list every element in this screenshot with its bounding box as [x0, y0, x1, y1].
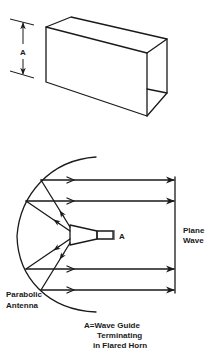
- plane-wave-label-2: Wave: [183, 236, 204, 245]
- antenna-label-2: Antenna: [6, 301, 39, 310]
- plane-wave-label-1: Plane: [183, 226, 205, 235]
- dimension-a: A: [10, 19, 34, 78]
- dimension-label: A: [20, 48, 26, 57]
- caption-line-2: Terminating: [97, 331, 142, 340]
- dimension-bottom-tick: [10, 71, 34, 78]
- incident-rays: [26, 180, 70, 290]
- incident-arrow-4: [60, 253, 64, 259]
- incident-arrow-1: [60, 211, 64, 217]
- box-inner-edge: [147, 89, 167, 93]
- horn-label: A: [119, 232, 125, 241]
- box-top-face: [46, 17, 167, 53]
- incident-ray-4: [41, 243, 70, 290]
- reflected-rays: [26, 177, 174, 293]
- waveguide-box: [46, 17, 167, 116]
- incident-ray-1: [41, 180, 70, 227]
- incident-arrow-2: [54, 220, 60, 224]
- antenna-label-1: Parabolic: [6, 290, 43, 299]
- incident-arrow-3: [54, 246, 60, 250]
- box-front-face: [46, 27, 147, 116]
- caption-line-1: A=Wave Guide: [84, 321, 140, 330]
- horn-waveguide: [97, 231, 113, 239]
- diagram-canvas: A: [0, 0, 216, 363]
- flared-horn: A: [70, 225, 125, 245]
- dimension-top-tick: [10, 19, 34, 25]
- caption-line-3: in Flared Horn: [93, 341, 147, 350]
- parabolic-antenna-diagram: A Plane Wave Parabolic Antenna A=Wave Gu…: [6, 157, 205, 350]
- horn-flare: [70, 225, 97, 245]
